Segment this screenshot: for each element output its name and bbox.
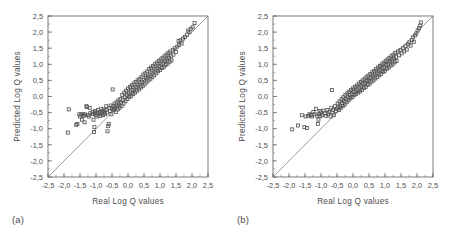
figure-container: -2,5-2,0-1,5-1,0-0,50,00,51,01,52,02,5-2… (0, 0, 450, 239)
y-tick-label: -1,0 (255, 124, 268, 133)
x-tick-label: 2,0 (412, 181, 422, 190)
y-axis-title: Predicted Log Q values (13, 51, 22, 142)
x-tick-label: -2,5 (42, 181, 55, 190)
y-tick-label: -2,5 (30, 173, 43, 182)
y-tick-label: 2,0 (258, 28, 268, 37)
data-point (67, 108, 70, 111)
data-point (300, 114, 303, 117)
y-tick-label: -1,5 (255, 141, 268, 150)
y-tick-label: -0,5 (255, 108, 268, 117)
x-tick-label: 0,0 (348, 181, 358, 190)
panel-caption-b: (b) (237, 214, 249, 225)
y-tick-label: 2,5 (33, 12, 43, 21)
scatter-plot-b: -2,5-2,0-1,5-1,0-0,50,00,51,01,52,02,5-2… (225, 0, 450, 239)
x-tick-label: -2,0 (283, 181, 296, 190)
x-tick-label: -2,0 (58, 181, 71, 190)
panel-a: -2,5-2,0-1,5-1,0-0,50,00,51,01,52,02,5-2… (0, 0, 225, 239)
data-point (193, 22, 196, 25)
y-tick-label: 0,0 (258, 92, 268, 101)
x-tick-label: 1,0 (155, 181, 165, 190)
y-axis-title: Predicted Log Q values (238, 51, 247, 142)
data-point (105, 105, 108, 108)
y-tick-label: -1,5 (30, 141, 43, 150)
data-points (66, 22, 196, 134)
data-point (314, 107, 317, 110)
x-tick-label: 2,5 (428, 181, 438, 190)
x-tick-label: 1,5 (171, 181, 181, 190)
data-point (291, 128, 294, 131)
y-tick-label: 1,0 (258, 60, 268, 69)
data-point (316, 122, 319, 125)
y-tick-label: 0,5 (33, 76, 43, 85)
x-tick-label: 2,0 (187, 181, 197, 190)
y-tick-label: 2,5 (258, 12, 268, 21)
x-axis-title: Real Log Q values (317, 197, 389, 206)
y-tick-label: -0,5 (30, 108, 43, 117)
y-tick-label: -1,0 (30, 124, 43, 133)
x-tick-label: -1,5 (299, 181, 312, 190)
data-point (419, 21, 422, 24)
y-tick-label: -2,5 (255, 173, 268, 182)
scatter-plot-a: -2,5-2,0-1,5-1,0-0,50,00,51,01,52,02,5-2… (0, 0, 225, 239)
y-tick-label: 1,5 (33, 44, 43, 53)
data-point (106, 130, 109, 133)
y-tick-label: 0,0 (33, 92, 43, 101)
x-tick-label: 2,5 (203, 181, 213, 190)
panel-caption-a: (a) (12, 214, 24, 225)
x-tick-label: -1,5 (74, 181, 87, 190)
data-points (291, 21, 423, 131)
x-tick-label: -1,0 (90, 181, 103, 190)
x-axis-title: Real Log Q values (92, 197, 164, 206)
x-tick-label: 0,5 (139, 181, 149, 190)
x-tick-label: 1,0 (380, 181, 390, 190)
y-tick-label: 1,5 (258, 44, 268, 53)
data-point (317, 118, 320, 121)
x-tick-label: 0,5 (364, 181, 374, 190)
y-tick-label: -2,0 (30, 157, 43, 166)
data-point (296, 124, 299, 127)
y-tick-label: 2,0 (33, 28, 43, 37)
x-tick-label: -0,5 (106, 181, 119, 190)
x-tick-label: -1,0 (315, 181, 328, 190)
y-tick-label: 1,0 (33, 60, 43, 69)
x-tick-label: 1,5 (396, 181, 406, 190)
x-tick-label: 0,0 (123, 181, 133, 190)
data-point (93, 126, 96, 129)
y-tick-label: 0,5 (258, 76, 268, 85)
x-tick-label: -2,5 (267, 181, 280, 190)
data-point (66, 131, 69, 134)
panel-b: -2,5-2,0-1,5-1,0-0,50,00,51,01,52,02,5-2… (225, 0, 450, 239)
data-point (92, 118, 95, 121)
x-tick-label: -0,5 (331, 181, 344, 190)
data-point (111, 88, 114, 91)
y-tick-label: -2,0 (255, 157, 268, 166)
data-point (330, 89, 333, 92)
